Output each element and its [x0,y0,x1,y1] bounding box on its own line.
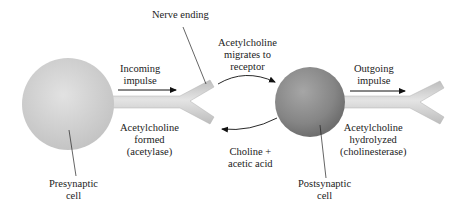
migrates-arrow [218,75,275,84]
label-postsynaptic-cell: Postsynaptic cell [298,178,351,202]
synapse-diagram: Nerve ending Incoming impulse Acetylchol… [0,0,465,212]
label-outgoing-impulse: Outgoing impulse [354,63,394,87]
nerve-ending-leader [183,27,206,84]
label-incoming-impulse: Incoming impulse [120,63,160,87]
label-acetylcholine-hydrolyzed: Acetylcholine hydrolyzed (cholinesterase… [340,122,406,158]
label-choline-acetic-acid: Choline + acetic acid [228,146,273,170]
label-nerve-ending: Nerve ending [152,9,209,21]
presynaptic-cell [22,58,114,150]
postsynaptic-axon [330,81,444,124]
label-presynaptic-cell: Presynaptic cell [49,178,98,202]
postsynaptic-cell [275,67,345,137]
label-acetylcholine-formed: Acetylcholine formed (acetylase) [120,122,179,158]
choline-return-arrow [222,118,277,130]
label-migrates: Acetylcholine migrates to receptor [218,37,277,73]
